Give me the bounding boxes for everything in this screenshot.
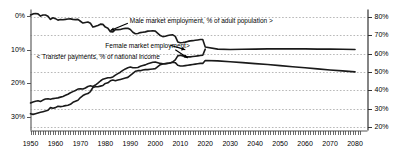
- x-axis-tick-label: 1950: [18, 140, 44, 147]
- y-axis-right-tick-label: 80%: [375, 13, 401, 20]
- data-series: [31, 14, 356, 115]
- y-axis-right-tick-label: 40%: [375, 86, 401, 93]
- x-axis-tick-label: 2060: [292, 140, 318, 147]
- annotation-female-employment: Female market employment>: [105, 43, 189, 50]
- x-axis-tick-label: 2000: [142, 140, 168, 147]
- x-axis-tick-label: 2050: [267, 140, 293, 147]
- chart-container: 0%10%20%30%20%30%40%50%60%70%80%19501960…: [0, 0, 401, 153]
- annotation-male-employment: Male market employment, % of adult popul…: [130, 18, 273, 25]
- gridlines: [31, 18, 368, 128]
- x-axis-tick-label: 1990: [117, 140, 143, 147]
- y-axis-left-tick-label: 0%: [0, 12, 25, 19]
- y-axis-right-tick-label: 60%: [375, 50, 401, 57]
- y-axis-left-tick-label: 10%: [0, 46, 25, 53]
- y-axis-left-tick-label: 20%: [0, 79, 25, 86]
- x-axis-tick-label: 2070: [317, 140, 343, 147]
- annotation-transfer-payments: < Transfer payments, % of national incom…: [36, 54, 159, 61]
- y-axis-right-tick-label: 70%: [375, 31, 401, 38]
- x-axis-tick-label: 1980: [92, 140, 118, 147]
- x-axis-tick-label: 2080: [342, 140, 368, 147]
- y-axis-right-tick-label: 30%: [375, 105, 401, 112]
- x-axis-tick-label: 2040: [242, 140, 268, 147]
- y-axis-right-tick-label: 20%: [375, 123, 401, 130]
- x-axis-tick-label: 1970: [67, 140, 93, 147]
- y-axis-left-tick-label: 30%: [0, 113, 25, 120]
- x-axis-tick-label: 2020: [192, 140, 218, 147]
- x-axis-tick-label: 2010: [167, 140, 193, 147]
- y-axis-right-tick-label: 50%: [375, 68, 401, 75]
- series-line-1: [31, 60, 356, 103]
- x-axis-tick-label: 2030: [217, 140, 243, 147]
- x-axis-tick-label: 1960: [42, 140, 68, 147]
